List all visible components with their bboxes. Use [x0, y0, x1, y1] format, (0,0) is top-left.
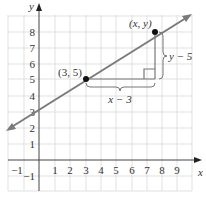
svg-text:7: 7: [144, 164, 150, 176]
y-axis-arrow-icon: [36, 3, 42, 11]
svg-text:3: 3: [83, 164, 89, 176]
horizontal-brace: [86, 83, 155, 91]
y-tick-labels: −1 1 2 3 4 5 6 7 8: [23, 26, 35, 182]
svg-text:1: 1: [52, 164, 58, 176]
svg-text:1: 1: [30, 138, 36, 150]
point-x-y: [152, 29, 158, 35]
x-axis-label: x: [197, 166, 203, 178]
point-3-5: [83, 76, 89, 82]
svg-text:5: 5: [30, 73, 36, 85]
svg-text:6: 6: [129, 164, 135, 176]
x-axis-arrow-icon: [194, 157, 202, 163]
svg-text:6: 6: [30, 58, 36, 70]
svg-text:4: 4: [30, 90, 36, 102]
svg-text:2: 2: [67, 164, 73, 176]
svg-text:8: 8: [30, 26, 36, 38]
horizontal-difference-label: x − 3: [107, 93, 132, 105]
svg-text:2: 2: [30, 122, 36, 134]
y-axis-label: y: [28, 0, 34, 12]
coordinate-diagram: x y −1 1 2 3 4 5 6 7 8 9 −1 1 2 3 4 5 6 …: [0, 0, 206, 198]
svg-text:8: 8: [159, 164, 165, 176]
svg-text:5: 5: [113, 164, 119, 176]
svg-text:9: 9: [174, 164, 180, 176]
x-tick-labels: −1 1 2 3 4 5 6 7 8 9: [11, 164, 180, 176]
point-x-y-label: (x, y): [129, 17, 152, 30]
vertical-difference-label: y − 5: [168, 50, 193, 62]
line-arrow-head-icon: [182, 14, 192, 22]
svg-text:−1: −1: [11, 164, 23, 176]
right-angle-mark: [144, 69, 155, 79]
vertical-brace: [159, 32, 167, 79]
svg-text:7: 7: [30, 42, 36, 54]
point-3-5-label: (3, 5): [58, 66, 82, 79]
graph-canvas: x y −1 1 2 3 4 5 6 7 8 9 −1 1 2 3 4 5 6 …: [0, 0, 206, 198]
line: [10, 18, 186, 128]
svg-text:4: 4: [98, 164, 104, 176]
svg-text:−1: −1: [23, 170, 35, 182]
right-triangle: [86, 32, 155, 79]
